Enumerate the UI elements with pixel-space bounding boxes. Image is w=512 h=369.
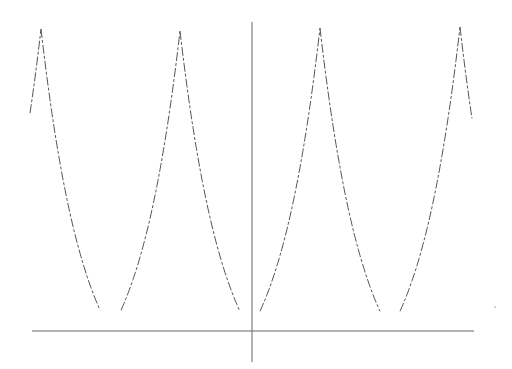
curve [30,27,472,312]
function-plot [0,0,512,369]
stray-dot [494,306,496,308]
